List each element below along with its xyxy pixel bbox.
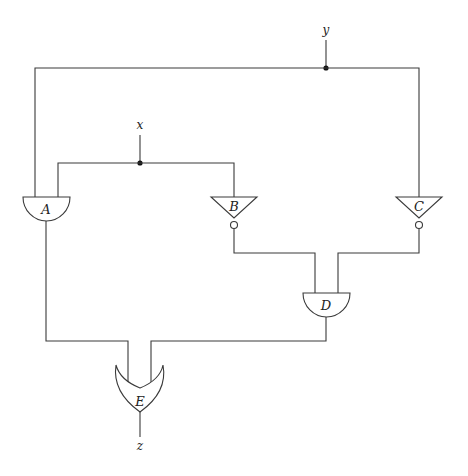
input-x: x	[137, 118, 144, 166]
input-y: y	[322, 23, 330, 71]
wire-b-to-d	[234, 229, 315, 294]
wire-a-to-e	[46, 221, 128, 383]
wire-d-to-e	[151, 317, 326, 383]
gate-label-a: A	[40, 202, 50, 217]
wire-c-to-d	[338, 229, 419, 294]
input-label-x: x	[137, 118, 144, 132]
gate-label-c: C	[414, 199, 424, 214]
gate-a-and: A	[23, 197, 70, 221]
gate-label-e: E	[134, 394, 145, 409]
inversion-bubble	[416, 222, 423, 229]
gate-c-not: C	[396, 197, 442, 229]
gate-b-not: B	[211, 197, 257, 229]
wire-x-bus	[58, 163, 234, 197]
logic-circuit-diagram: y x A B C D E z	[0, 0, 468, 476]
gate-e-or: E	[116, 365, 164, 412]
wire-y-bus	[35, 68, 419, 197]
gate-label-b: B	[228, 199, 239, 214]
gate-label-d: D	[320, 298, 332, 313]
gate-d-and: D	[303, 293, 350, 317]
output-z: z	[136, 412, 144, 453]
input-label-y: y	[322, 23, 330, 37]
output-label-z: z	[136, 439, 144, 453]
inversion-bubble	[231, 222, 238, 229]
